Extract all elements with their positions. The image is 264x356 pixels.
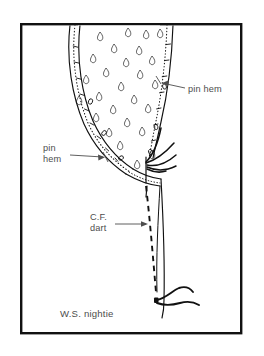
label-pin-hem-left-line1: pin: [43, 143, 56, 153]
diagram-canvas: pin hem pin hem C.F. dart W.S. nightie: [0, 0, 264, 356]
label-cf-dart-line1: C.F.: [90, 212, 107, 222]
label-pin-hem-left-line2: hem: [43, 154, 62, 164]
label-pin-hem-right: pin hem: [188, 84, 222, 94]
label-cf-dart-line2: dart: [90, 223, 107, 233]
figure-caption: W.S. nightie: [60, 308, 114, 319]
dart-point-knot: [154, 298, 159, 304]
pattern-diagram-figure: pin hem pin hem C.F. dart W.S. nightie: [0, 0, 264, 356]
